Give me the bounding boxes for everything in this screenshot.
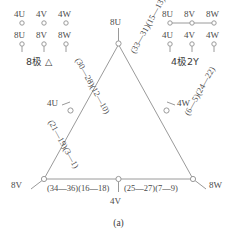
legend-right-label-4v: 4V <box>184 30 195 40</box>
figure-caption: (a) <box>0 218 237 228</box>
coil-group-tick-marks <box>62 102 175 105</box>
legend-left-label-8v: 8V <box>36 30 47 40</box>
legend-left-bottom-terminals <box>20 42 68 52</box>
legend-right-label-8v: 8V <box>184 9 195 19</box>
legend-left-label-4u: 4U <box>14 9 25 19</box>
legend-right-label-4w: 4W <box>206 30 219 40</box>
terminal-label-8v: 8V <box>11 180 22 190</box>
legend-left-top-terminals <box>20 21 68 25</box>
terminal-label-4v: 4V <box>110 196 121 206</box>
coil-group-label-bottom-right: (25—27)(7—9) <box>124 183 178 193</box>
legend-left-label-4v: 4V <box>36 9 47 19</box>
legend-right-label-4u: 4U <box>162 30 173 40</box>
legend-right-title: 4极2Y <box>171 57 199 67</box>
legend-left-label-8u: 8U <box>14 30 25 40</box>
coil-group-label-bottom-left: (34—36)(16—18) <box>47 183 109 193</box>
legend-left-label-4w: 4W <box>58 9 71 19</box>
legend-left-title: 8极 △ <box>26 57 52 67</box>
terminal-label-4u: 4U <box>47 98 58 108</box>
terminal-label-apex-8u: 8U <box>110 17 121 27</box>
legend-right-label-8w: 8W <box>206 9 219 19</box>
figure-container: 4U 4V 4W 8U 8V 8W 8极 △ 8U 8V 8W 4U 4V 4W… <box>0 0 237 239</box>
legend-right-top-terminals <box>168 21 216 25</box>
legend-right-label-8u: 8U <box>162 9 173 19</box>
terminal-label-8w: 8W <box>209 180 222 190</box>
legend-left-label-8w: 8W <box>58 30 71 40</box>
legend-right-bottom-terminals <box>168 42 216 52</box>
